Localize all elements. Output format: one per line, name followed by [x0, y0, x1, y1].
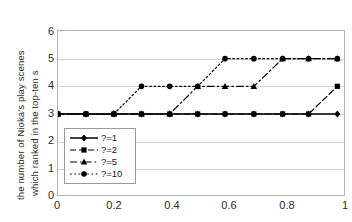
- y-tick-3: 3: [36, 108, 54, 119]
- x-tick-0.6: 0.6: [212, 200, 246, 211]
- legend-swatch-2: [69, 156, 99, 168]
- y-tick-4: 4: [36, 80, 54, 91]
- x-tick-1: 1: [328, 200, 352, 211]
- legend-item-1[interactable]: ?=2: [69, 144, 131, 156]
- legend-swatch-0: [69, 132, 99, 144]
- x-tick-0.4: 0.4: [155, 200, 189, 211]
- legend: ?=1 ?=2 ?=5 ?=10: [64, 128, 136, 184]
- legend-item-0[interactable]: ?=1: [69, 132, 131, 144]
- y-axis-label: the number of Nioka's play scenes which …: [0, 0, 40, 205]
- series-3: [58, 56, 340, 117]
- y-tick-1: 1: [36, 163, 54, 174]
- legend-item-2[interactable]: ?=5: [69, 156, 131, 168]
- legend-label-3: ?=10: [101, 168, 122, 180]
- legend-swatch-1: [69, 144, 99, 156]
- x-tick-0.2: 0.2: [97, 200, 131, 211]
- legend-label-0: ?=1: [101, 132, 117, 144]
- y-tick-6: 6: [36, 26, 54, 37]
- legend-label-1: ?=2: [101, 144, 117, 156]
- x-tick-0.8: 0.8: [270, 200, 304, 211]
- x-tick-0: 0: [40, 200, 74, 211]
- legend-label-2: ?=5: [101, 156, 117, 168]
- y-tick-5: 5: [36, 53, 54, 64]
- y-axis-label-line1: the number of Nioka's play scenes: [15, 50, 26, 200]
- legend-swatch-3: [69, 168, 99, 180]
- y-tick-2: 2: [36, 135, 54, 146]
- chart-figure: the number of Nioka's play scenes which …: [0, 0, 352, 222]
- legend-item-3[interactable]: ?=10: [69, 168, 131, 180]
